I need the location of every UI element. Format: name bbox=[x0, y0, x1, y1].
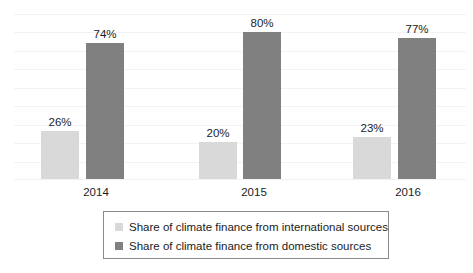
legend-item-international[interactable]: Share of climate finance from internatio… bbox=[115, 220, 388, 234]
bar-value-label-2014-international: 26% bbox=[41, 116, 79, 129]
bar-2016-international[interactable] bbox=[353, 137, 391, 179]
bar-value-label-2014-domestic: 74% bbox=[86, 28, 124, 41]
bar-value-label-2015-domestic: 80% bbox=[243, 17, 281, 30]
legend: Share of climate finance from internatio… bbox=[103, 211, 389, 259]
bar-2014-international[interactable] bbox=[41, 131, 79, 179]
bar-value-label-2015-international: 20% bbox=[199, 127, 237, 140]
bar-2014-domestic[interactable] bbox=[86, 43, 124, 179]
bar-2015-international[interactable] bbox=[199, 142, 237, 179]
legend-item-label: Share of climate finance from internatio… bbox=[129, 221, 388, 234]
bar-2016-domestic[interactable] bbox=[398, 38, 436, 179]
bar-value-label-2016-international: 23% bbox=[353, 122, 391, 135]
legend-swatch-icon bbox=[115, 223, 123, 231]
gridline bbox=[14, 179, 466, 180]
bar-value-label-2016-domestic: 77% bbox=[398, 23, 436, 36]
legend-swatch-icon bbox=[115, 242, 123, 250]
bar-2015-domestic[interactable] bbox=[243, 32, 281, 179]
x-axis-label-2016: 2016 bbox=[353, 186, 463, 199]
legend-item-label: Share of climate finance from domestic s… bbox=[129, 240, 371, 253]
plot-area: 26% 74% 20% 80% 23% 77% bbox=[14, 14, 466, 180]
legend-item-domestic[interactable]: Share of climate finance from domestic s… bbox=[115, 239, 371, 253]
x-axis-label-2014: 2014 bbox=[41, 186, 151, 199]
x-axis-label-2015: 2015 bbox=[199, 186, 309, 199]
bar-chart: 26% 74% 20% 80% 23% 77% 2014 2015 2016 S… bbox=[0, 0, 473, 273]
gridline bbox=[14, 14, 466, 15]
